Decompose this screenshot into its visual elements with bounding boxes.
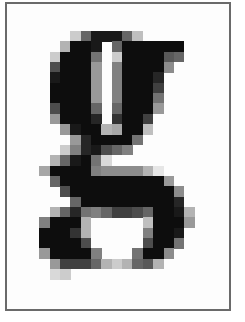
glyph-pixel: [132, 124, 143, 135]
glyph-pixel: [60, 103, 71, 114]
glyph-pixel: [81, 124, 92, 135]
glyph-pixel: [81, 197, 92, 208]
glyph-pixel: [60, 52, 71, 63]
glyph-pixel: [153, 83, 164, 94]
glyph-pixel: [50, 62, 61, 73]
glyph-pixel: [174, 207, 185, 218]
glyph-pixel: [132, 207, 143, 218]
glyph-pixel: [122, 186, 133, 197]
glyph-pixel: [91, 103, 102, 114]
glyph-pixel: [70, 135, 81, 146]
glyph-pixel: [50, 166, 61, 177]
glyph-pixel: [164, 238, 175, 249]
glyph-pixel: [132, 72, 143, 83]
glyph-pixel: [101, 176, 112, 187]
glyph-pixel: [91, 31, 102, 42]
glyph-pixel: [39, 248, 50, 259]
glyph-pixel: [153, 217, 164, 228]
glyph-pixel: [81, 166, 92, 177]
glyph-pixel: [101, 197, 112, 208]
glyph-pixel: [153, 259, 164, 270]
glyph-pixel: [91, 259, 102, 270]
glyph-pixel: [70, 52, 81, 63]
glyph-pixel: [122, 166, 133, 177]
glyph-pixel: [164, 41, 175, 52]
glyph-pixel: [143, 248, 154, 259]
glyph-pixel: [112, 41, 123, 52]
glyph-pixel: [91, 124, 102, 135]
glyph-pixel: [50, 114, 61, 125]
glyph-pixel: [153, 186, 164, 197]
glyph-pixel: [60, 269, 71, 280]
glyph-pixel: [164, 197, 175, 208]
glyph-pixel: [112, 103, 123, 114]
glyph-pixel: [143, 259, 154, 270]
glyph-pixel: [143, 52, 154, 63]
glyph-pixel: [164, 228, 175, 239]
glyph-pixel: [143, 228, 154, 239]
glyph-pixel: [101, 259, 112, 270]
glyph-pixel: [81, 238, 92, 249]
glyph-pixel: [101, 31, 112, 42]
glyph-pixel: [112, 207, 123, 218]
glyph-pixel: [164, 176, 175, 187]
glyph-pixel: [122, 52, 133, 63]
glyph-pixel: [50, 155, 61, 166]
glyph-pixel: [50, 52, 61, 63]
glyph-pixel: [153, 176, 164, 187]
glyph-pixel: [122, 145, 133, 156]
glyph-pixel: [132, 135, 143, 146]
glyph-pixel: [70, 207, 81, 218]
glyph-pixel: [132, 114, 143, 125]
glyph-pixel: [122, 31, 133, 42]
glyph-pixel: [91, 72, 102, 83]
glyph-pixel: [81, 207, 92, 218]
glyph-pixel: [132, 93, 143, 104]
glyph-pixel: [112, 124, 123, 135]
glyph-pixel: [101, 207, 112, 218]
glyph-pixel: [122, 259, 133, 270]
glyph-pixel: [70, 259, 81, 270]
glyph-pixel: [91, 135, 102, 146]
glyph-pixel: [70, 166, 81, 177]
glyph-pixel: [81, 114, 92, 125]
glyph-pixel: [143, 83, 154, 94]
glyph-pixel: [174, 186, 185, 197]
glyph-pixel: [132, 176, 143, 187]
glyph-pixel: [143, 93, 154, 104]
glyph-pixel: [70, 155, 81, 166]
glyph-pixel: [164, 52, 175, 63]
glyph-pixel: [50, 72, 61, 83]
glyph-pixel: [81, 31, 92, 42]
glyph-pixel: [91, 155, 102, 166]
glyph-pixel: [91, 197, 102, 208]
glyph-pixel: [153, 52, 164, 63]
glyph-pixel: [60, 124, 71, 135]
glyph-pixel: [91, 114, 102, 125]
glyph-pixel: [81, 248, 92, 259]
glyph-pixel: [112, 259, 123, 270]
glyph-pixel: [60, 217, 71, 228]
glyph-pixel: [39, 228, 50, 239]
glyph-pixel: [70, 72, 81, 83]
glyph-pixel: [60, 72, 71, 83]
glyph-pixel: [91, 52, 102, 63]
glyph-pixel: [60, 186, 71, 197]
glyph-pixel: [60, 83, 71, 94]
glyph-pixel: [70, 114, 81, 125]
glyph-pixel: [91, 145, 102, 156]
glyph-pixel: [60, 176, 71, 187]
glyph-pixel: [112, 93, 123, 104]
glyph-pixel: [143, 238, 154, 249]
glyph-pixel: [143, 186, 154, 197]
glyph-pixel: [50, 93, 61, 104]
glyph-pixel: [153, 248, 164, 259]
glyph-pixel: [70, 176, 81, 187]
glyph-pixel: [122, 124, 133, 135]
glyph-pixel: [81, 103, 92, 114]
glyph-pixel: [50, 238, 61, 249]
glyph-pixel: [60, 62, 71, 73]
glyph-pixel: [91, 248, 102, 259]
glyph-pixel: [174, 52, 185, 63]
glyph-pixel: [112, 176, 123, 187]
